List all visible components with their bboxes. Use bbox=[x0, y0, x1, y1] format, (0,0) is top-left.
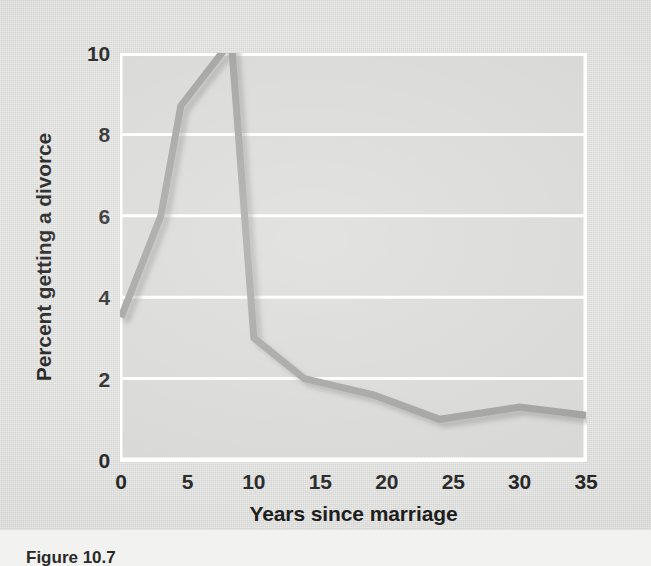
y-tick-label-4: 4 bbox=[99, 287, 110, 308]
x-tick-label-30: 30 bbox=[508, 471, 531, 492]
y-tick-label-6: 6 bbox=[99, 205, 110, 226]
x-tick-label-35: 35 bbox=[575, 471, 598, 492]
figure-panel: 0246810 05101520253035 Years since marri… bbox=[0, 0, 651, 530]
x-axis-title: Years since marriage bbox=[120, 502, 587, 526]
x-tick-label-25: 25 bbox=[442, 471, 465, 492]
figure-caption: Figure 10.7 bbox=[26, 548, 116, 566]
y-axis-title: Percent getting a divorce bbox=[32, 133, 56, 381]
x-tick-label-0: 0 bbox=[115, 471, 126, 492]
x-tick-label-20: 20 bbox=[375, 471, 398, 492]
x-tick-label-15: 15 bbox=[309, 471, 332, 492]
y-tick-label-8: 8 bbox=[99, 124, 110, 145]
x-tick-label-10: 10 bbox=[242, 471, 265, 492]
plot-background bbox=[120, 53, 587, 462]
y-tick-label-0: 0 bbox=[99, 450, 110, 471]
x-tick-label-5: 5 bbox=[182, 471, 193, 492]
plot-area: 0246810 05101520253035 bbox=[120, 53, 587, 462]
chart-svg bbox=[120, 53, 587, 462]
y-tick-label-10: 10 bbox=[87, 43, 110, 64]
y-tick-label-2: 2 bbox=[99, 368, 110, 389]
